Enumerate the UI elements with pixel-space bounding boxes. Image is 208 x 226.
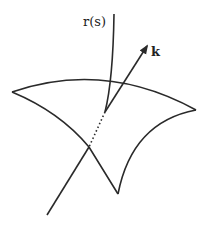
surface-right-edge [118,110,196,194]
hidden-dotted-segment [89,112,105,147]
incoming-line [47,147,89,215]
curve-r-s [105,14,114,112]
surface-patch [12,80,196,194]
vector-label-k: k [151,45,160,58]
curve-label-r-s: r(s) [83,15,106,28]
surface-bottom-left-edge [12,92,118,194]
diagram-canvas [0,0,208,226]
